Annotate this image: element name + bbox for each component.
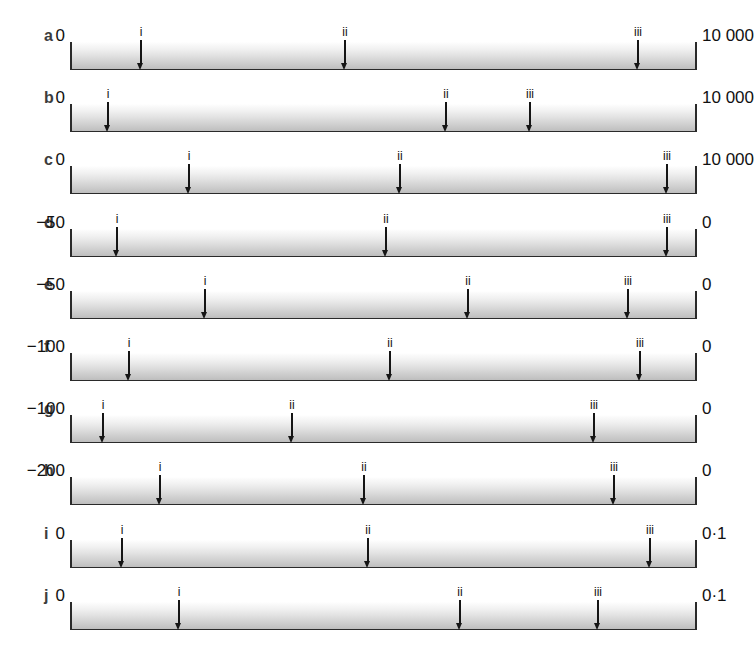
down-arrow-icon (99, 436, 105, 443)
scale-marker-label: ii (465, 275, 470, 287)
scale-right-label: 0 (702, 400, 711, 417)
scale-marker-label: iii (624, 275, 632, 287)
scale-marker-label: iii (610, 461, 618, 473)
down-arrow-icon-stem (116, 227, 117, 252)
down-arrow-icon-stem (639, 351, 640, 376)
scale-left-label: 0 (56, 525, 65, 542)
scale-marker-label: ii (361, 461, 366, 473)
scale-marker-label: iii (636, 337, 644, 349)
down-arrow-icon-stem (363, 475, 364, 500)
down-arrow-icon-stem (188, 164, 189, 189)
scale-left-label: 0 (56, 587, 65, 604)
down-arrow-icon-stem (649, 538, 650, 563)
down-arrow-icon (663, 250, 669, 257)
scale-marker-label: i (121, 524, 124, 536)
down-arrow-icon (624, 312, 630, 319)
down-arrow-icon (118, 561, 124, 568)
down-arrow-icon (360, 498, 366, 505)
scale-marker-label: iii (526, 88, 534, 100)
down-arrow-icon (137, 63, 143, 70)
scale-marker-label: i (178, 586, 181, 598)
scale-right-label: 10 000 (702, 27, 754, 44)
scale-marker-label: ii (457, 586, 462, 598)
down-arrow-icon (464, 312, 470, 319)
scale-marker-label: i (107, 88, 110, 100)
gradient-scale-bar (70, 415, 697, 443)
down-arrow-icon (396, 187, 402, 194)
scale-right-label: 0 (702, 214, 711, 231)
scale-marker-label: i (116, 213, 119, 225)
down-arrow-icon (610, 498, 616, 505)
down-arrow-icon (185, 187, 191, 194)
down-arrow-icon-stem (389, 351, 390, 376)
scale-marker-label: i (204, 275, 207, 287)
down-arrow-icon-stem (467, 289, 468, 314)
scale-right-label: 0 (702, 462, 711, 479)
down-arrow-icon-stem (159, 475, 160, 500)
scale-marker-label: ii (365, 524, 370, 536)
down-arrow-icon-stem (107, 102, 108, 127)
scale-marker-label: i (188, 150, 191, 162)
down-arrow-icon-stem (367, 538, 368, 563)
gradient-scale-bar (70, 602, 697, 630)
down-arrow-icon-stem (121, 538, 122, 563)
scale-marker-label: i (159, 461, 162, 473)
scale-left-label: −50 (36, 214, 65, 231)
down-arrow-icon-stem (666, 227, 667, 252)
scale-marker-label: iii (590, 399, 598, 411)
down-arrow-icon-stem (459, 600, 460, 625)
down-arrow-icon (663, 187, 669, 194)
scale-right-label: 10 000 (702, 151, 754, 168)
down-arrow-icon-stem (385, 227, 386, 252)
down-arrow-icon-stem (140, 40, 141, 65)
down-arrow-icon-stem (637, 40, 638, 65)
gradient-scale-bar (70, 353, 697, 381)
gradient-scale-bar (70, 104, 697, 132)
scale-right-label: 0·1 (702, 525, 727, 542)
panel-letter: b (44, 90, 54, 106)
scale-marker-label: ii (387, 337, 392, 349)
down-arrow-icon-stem (445, 102, 446, 127)
down-arrow-icon (456, 623, 462, 630)
down-arrow-icon-stem (627, 289, 628, 314)
scale-marker-label: i (102, 399, 105, 411)
down-arrow-icon (364, 561, 370, 568)
gradient-scale-bar (70, 166, 697, 194)
down-arrow-icon-stem (344, 40, 345, 65)
scale-row: a010 000iiiiii (0, 10, 749, 72)
scale-row: c010 000iiiiii (0, 134, 749, 196)
scale-row: j00·1iiiiii (0, 570, 749, 632)
scale-left-label: −100 (27, 338, 65, 355)
down-arrow-icon (113, 250, 119, 257)
scale-marker-label: iii (663, 150, 671, 162)
scale-marker-label: iii (646, 524, 654, 536)
down-arrow-icon-stem (593, 413, 594, 438)
scale-right-label: 10 000 (702, 89, 754, 106)
down-arrow-icon-stem (204, 289, 205, 314)
down-arrow-icon (646, 561, 652, 568)
scale-marker-label: ii (383, 213, 388, 225)
scale-marker-label: ii (397, 150, 402, 162)
scale-marker-label: ii (342, 26, 347, 38)
down-arrow-icon-stem (291, 413, 292, 438)
scale-right-label: 0·1 (702, 587, 727, 604)
down-arrow-icon-stem (178, 600, 179, 625)
down-arrow-icon (382, 250, 388, 257)
scale-marker-label: ii (289, 399, 294, 411)
down-arrow-icon-stem (666, 164, 667, 189)
scale-left-label: −200 (27, 462, 65, 479)
down-arrow-icon (594, 623, 600, 630)
scale-left-label: 0 (56, 89, 65, 106)
down-arrow-icon (526, 125, 532, 132)
panel-letter: a (44, 28, 53, 44)
gradient-scale-bar (70, 42, 697, 70)
gradient-scale-bar (70, 291, 697, 319)
panel-letter: j (44, 588, 48, 604)
scale-row: g−1000iiiiii (0, 383, 749, 445)
down-arrow-icon (104, 125, 110, 132)
down-arrow-icon (201, 312, 207, 319)
down-arrow-icon (288, 436, 294, 443)
scale-marker-label: i (140, 26, 143, 38)
scale-row: f−1000iiiiii (0, 321, 749, 383)
